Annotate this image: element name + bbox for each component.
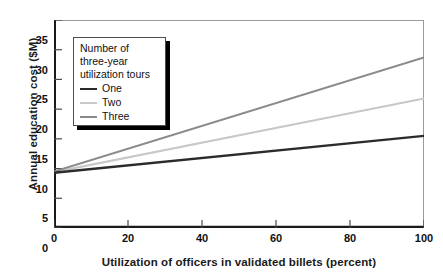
y-tick-label: 25 (2, 93, 48, 105)
x-tick-label: 80 (330, 232, 370, 244)
y-tick-label: 10 (2, 183, 48, 195)
x-axis-tick-labels: 020406080100 (54, 232, 424, 248)
y-axis-tick-labels: 05101520253035 (0, 20, 48, 228)
legend-label: Two (102, 96, 121, 109)
y-tick-label: 35 (2, 34, 48, 46)
x-tick-label: 20 (108, 232, 148, 244)
legend-title-line: Number of (80, 42, 165, 55)
x-tick-label: 100 (404, 232, 443, 244)
y-tick-label: 15 (2, 153, 48, 165)
x-tick-label: 60 (256, 232, 296, 244)
legend-swatch-three (80, 116, 97, 118)
chart-legend: Number ofthree-yearutilization tours One… (73, 37, 166, 126)
y-tick-label: 30 (2, 64, 48, 76)
legend-label: Three (102, 110, 129, 123)
x-axis-title: Utilization of officers in validated bil… (54, 256, 424, 268)
legend-title-line: utilization tours (80, 68, 165, 81)
y-tick-label: 5 (2, 212, 48, 224)
x-tick-label: 40 (182, 232, 222, 244)
legend-swatch-one (80, 88, 97, 90)
chart-figure: Annual education cost ($M) 0510152025303… (0, 0, 443, 280)
legend-entry-two: Two (80, 96, 165, 109)
legend-title: Number ofthree-yearutilization tours (80, 42, 165, 81)
x-tick-label: 0 (34, 232, 74, 244)
legend-swatch-two (80, 102, 97, 104)
legend-entry-one: One (80, 82, 165, 95)
legend-entries: OneTwoThree (80, 82, 165, 123)
legend-label: One (102, 82, 122, 95)
legend-title-line: three-year (80, 55, 165, 68)
legend-entry-three: Three (80, 110, 165, 123)
y-tick-label: 20 (2, 123, 48, 135)
